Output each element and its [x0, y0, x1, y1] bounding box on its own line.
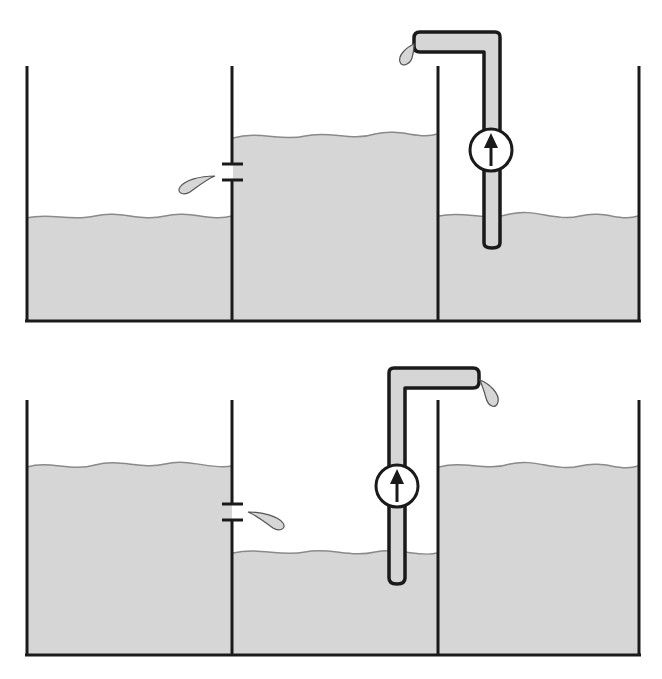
water-right-tank [439, 212, 638, 320]
water-left-tank [27, 462, 232, 654]
water-middle-tank [233, 132, 437, 320]
bottom-panel [25, 368, 641, 655]
tank-diagram [0, 0, 662, 679]
water-drop-icon [248, 512, 284, 530]
water-drop-icon [179, 176, 215, 194]
pump [376, 465, 418, 507]
water-left-tank [27, 214, 232, 320]
water-right-tank [439, 462, 638, 654]
water-drop-icon [480, 380, 498, 406]
pump [470, 129, 512, 171]
top-panel [25, 32, 641, 321]
water-drop-icon [400, 44, 414, 65]
